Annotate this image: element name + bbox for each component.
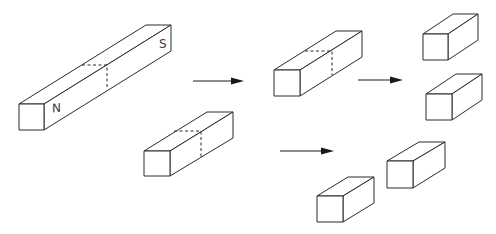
arrow-head-icon <box>390 77 403 84</box>
arrow-head-icon <box>231 78 244 85</box>
arrow-1 <box>193 78 244 85</box>
arrow-3 <box>280 148 334 155</box>
arrow-head-icon <box>321 148 334 155</box>
quarter-magnet-d <box>317 177 374 222</box>
magnet-cutting-diagram: N S <box>0 0 496 234</box>
half-magnet-bottom <box>144 112 233 176</box>
quarter-magnet-a <box>423 14 478 60</box>
original-bar-magnet: N S <box>19 25 171 130</box>
north-pole-label: N <box>52 101 61 116</box>
magnet-front-face <box>19 104 44 130</box>
quarter-magnet-c <box>387 142 445 188</box>
south-pole-label: S <box>159 37 167 51</box>
quarter-magnet-b <box>426 74 482 120</box>
half-magnet-top <box>274 31 362 96</box>
arrow-2 <box>358 77 403 84</box>
